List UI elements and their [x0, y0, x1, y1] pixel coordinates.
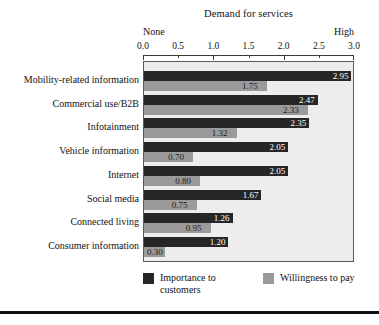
bar-value-label: 1.32: [212, 129, 228, 138]
bar-value-label: 2.05: [269, 143, 285, 152]
legend-item-importance: Importance to customers: [143, 272, 246, 296]
category-label: Consumer information: [48, 241, 139, 251]
scale-high-label: High: [334, 26, 354, 37]
x-tick-mark: [353, 55, 354, 60]
bar-value-label: 2.95: [333, 71, 349, 80]
bar-willingness: [144, 176, 200, 186]
bar-value-label: 2.33: [283, 105, 299, 114]
chart-figure: Demand for services None High 0.00.51.01…: [0, 0, 379, 325]
bar-value-label: 0.30: [147, 248, 163, 257]
category-label: Vehicle information: [59, 146, 139, 156]
bars-container: 2.951.752.472.332.351.322.050.702.050.80…: [144, 62, 353, 261]
x-tick-mark: [249, 55, 250, 58]
x-tick-mark: [284, 55, 285, 60]
bar-importance: [144, 166, 288, 176]
x-tick-label: 0.5: [172, 41, 184, 51]
x-axis-tick-labels: 0.00.51.01.52.02.53.0: [143, 41, 354, 53]
bar-willingness: [144, 200, 197, 210]
bar-value-label: 1.67: [243, 190, 259, 199]
category-label: Internet: [108, 170, 139, 180]
category-label: Connected living: [70, 217, 139, 227]
x-tick-label: 2.5: [313, 41, 325, 51]
bar-value-label: 1.75: [242, 81, 258, 90]
bar-importance: [144, 118, 309, 128]
bar-importance: [144, 71, 351, 81]
bar-value-label: 0.95: [186, 224, 202, 233]
x-tick-label: 3.0: [348, 41, 360, 51]
bar-value-label: 2.35: [291, 119, 307, 128]
bar-value-label: 1.20: [210, 238, 226, 247]
category-label: Mobility-related information: [24, 75, 139, 85]
bar-value-label: 0.75: [172, 200, 188, 209]
category-label: Social media: [87, 194, 139, 204]
x-tick-label: 1.5: [243, 41, 255, 51]
x-tick-mark: [213, 55, 214, 60]
legend-swatch-icon: [143, 273, 154, 284]
scale-low-label: None: [143, 26, 165, 37]
x-tick-mark: [178, 55, 179, 58]
bar-value-label: 2.05: [269, 166, 285, 175]
legend-item-label: Importance to customers: [160, 272, 246, 296]
chart-title: Demand for services: [143, 8, 354, 19]
x-tick-mark: [143, 55, 144, 60]
bar-importance: [144, 95, 318, 105]
legend-swatch-icon: [263, 273, 274, 284]
bar-value-label: 1.26: [214, 214, 230, 223]
x-tick-label: 1.0: [207, 41, 219, 51]
bar-value-label: 0.70: [168, 153, 184, 162]
y-axis-category-labels: Mobility-related informationCommercial u…: [0, 61, 139, 262]
bottom-divider: [0, 311, 379, 314]
bar-value-label: 0.80: [175, 176, 191, 185]
category-label: Infotainment: [87, 122, 139, 132]
x-tick-mark: [319, 55, 320, 58]
x-tick-label: 2.0: [278, 41, 290, 51]
legend-item-label: Willingness to pay: [280, 272, 355, 284]
legend-item-willingness: Willingness to pay: [263, 272, 355, 284]
plot-area: 2.951.752.472.332.351.322.050.702.050.80…: [143, 61, 354, 262]
chart-legend: Importance to customers Willingness to p…: [143, 272, 379, 306]
x-tick-label: 0.0: [137, 41, 149, 51]
bar-importance: [144, 142, 288, 152]
category-label: Commercial use/B2B: [53, 99, 139, 109]
bar-value-label: 2.47: [299, 95, 315, 104]
